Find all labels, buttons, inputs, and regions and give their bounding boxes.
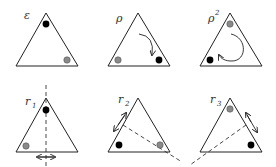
gray-dot <box>227 106 233 112</box>
gray-dot <box>227 21 233 27</box>
label-r: r <box>210 93 216 106</box>
black-dot <box>43 107 50 114</box>
black-dot <box>248 142 255 149</box>
label-r: r <box>25 95 31 108</box>
panel-rho-squared: ρ 2 <box>200 9 262 66</box>
rotation-arrow-icon <box>219 34 243 61</box>
panel-r1: r 1 <box>16 85 78 167</box>
panel-r2: r 2 <box>108 93 182 162</box>
label-subscript: 3 <box>217 100 222 108</box>
swap-arrow-icon <box>114 115 125 131</box>
reflection-axis <box>123 125 182 162</box>
gray-dot <box>23 143 29 149</box>
label-rho: ρ <box>115 12 123 25</box>
reflection-axis <box>190 125 246 165</box>
panel-identity: ε <box>16 9 78 66</box>
label-subscript: 1 <box>32 102 36 110</box>
gray-dot <box>115 57 121 63</box>
d3-symmetry-diagram: ε ρ ρ 2 r 1 r 2 <box>0 0 276 167</box>
black-dot <box>207 57 214 64</box>
label-r: r <box>118 93 124 106</box>
panel-rho: ρ <box>108 12 170 66</box>
label-exponent: 2 <box>214 9 220 17</box>
rotation-arrow-icon <box>139 34 152 55</box>
black-dot <box>116 142 123 149</box>
gray-dot <box>157 142 163 148</box>
label-rho: ρ <box>207 12 215 25</box>
gray-dot <box>64 57 70 63</box>
label-epsilon: ε <box>24 9 30 22</box>
panel-r3: r 3 <box>190 93 262 165</box>
black-dot <box>156 57 163 64</box>
black-dot <box>43 21 50 28</box>
label-subscript: 2 <box>124 100 130 108</box>
